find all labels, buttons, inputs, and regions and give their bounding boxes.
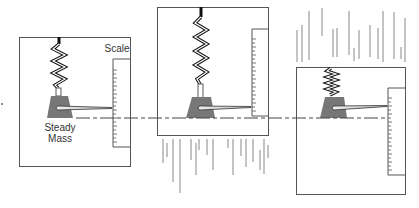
pointer-icon: [56, 106, 112, 110]
pointer-icon: [198, 106, 251, 110]
motion-lines-above: [297, 8, 405, 62]
steady-mass-label-line2: Mass: [42, 133, 78, 144]
panel-3: [297, 8, 406, 195]
spring-icon: [327, 68, 336, 95]
spring-icon: [53, 37, 65, 96]
scale-ruler: [388, 88, 405, 175]
scale-label: Scale: [102, 43, 132, 54]
steady-mass-label-line1: Steady: [42, 122, 78, 133]
spring-scale-diagram: [0, 0, 419, 208]
pointer-icon: [332, 106, 387, 111]
scale-ruler: [113, 59, 130, 147]
panel-1: [20, 37, 131, 167]
stray-dot: [1, 103, 3, 105]
panel-2: [158, 7, 269, 193]
spring-icon: [195, 7, 207, 98]
motion-lines-below: [163, 139, 268, 193]
scale-ruler: [252, 29, 268, 116]
